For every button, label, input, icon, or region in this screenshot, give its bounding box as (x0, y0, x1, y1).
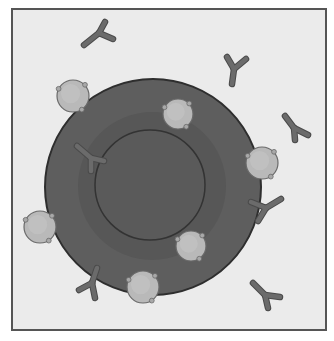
particle-sphere (175, 231, 206, 261)
particle-sphere (126, 271, 159, 303)
particle-sphere (56, 80, 89, 112)
cell-nucleus (95, 130, 205, 240)
diagram-canvas (0, 0, 334, 341)
particle-sphere (162, 99, 193, 129)
particle-sphere (245, 147, 278, 179)
particle-sphere (23, 211, 56, 243)
cell-diagram (0, 0, 334, 341)
